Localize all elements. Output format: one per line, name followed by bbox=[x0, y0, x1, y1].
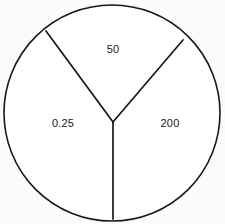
pie-slice-area bbox=[4, 5, 220, 221]
pie-chart-canvas: 50 0.25 200 bbox=[0, 0, 225, 224]
slice-label-top: 50 bbox=[107, 43, 120, 55]
slice-label-left: 0.25 bbox=[52, 117, 74, 129]
slice-label-right: 200 bbox=[161, 117, 180, 129]
pie-chart-figure: 50 0.25 200 bbox=[0, 0, 225, 224]
